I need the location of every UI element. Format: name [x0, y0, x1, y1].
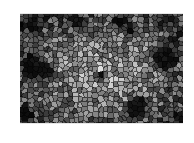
- cell-mosaic-image: [20, 14, 183, 123]
- image-bottom-edge: [20, 123, 183, 124]
- image-frame: [20, 14, 183, 123]
- image-top-edge: [20, 13, 183, 14]
